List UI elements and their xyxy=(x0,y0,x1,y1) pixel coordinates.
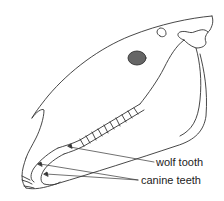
dental-arcade-upper xyxy=(58,104,140,148)
wolf-tooth-label: wolf tooth xyxy=(156,157,203,168)
maxilla-line xyxy=(140,40,184,104)
orbit xyxy=(128,51,146,65)
canine-leader-upper xyxy=(40,164,138,180)
zygomatic-notch xyxy=(157,28,166,37)
wolf-tooth-leader xyxy=(70,147,154,162)
horse-skull-diagram: wolf tooth canine teeth xyxy=(0,0,224,201)
dental-arcade-lower xyxy=(64,110,144,154)
canine-teeth-label: canine teeth xyxy=(141,175,201,186)
temporal-ridge xyxy=(178,30,208,40)
mandible-lower-outline xyxy=(26,54,207,189)
mandible-ramus xyxy=(180,48,201,136)
cheek-teeth xyxy=(80,108,138,146)
incisors xyxy=(22,176,34,188)
skull-drawing xyxy=(0,0,224,201)
upper-muzzle xyxy=(22,158,26,188)
nasal-notch xyxy=(26,109,44,158)
interdental-lower xyxy=(41,154,64,185)
canine-leader-lower xyxy=(46,174,138,180)
